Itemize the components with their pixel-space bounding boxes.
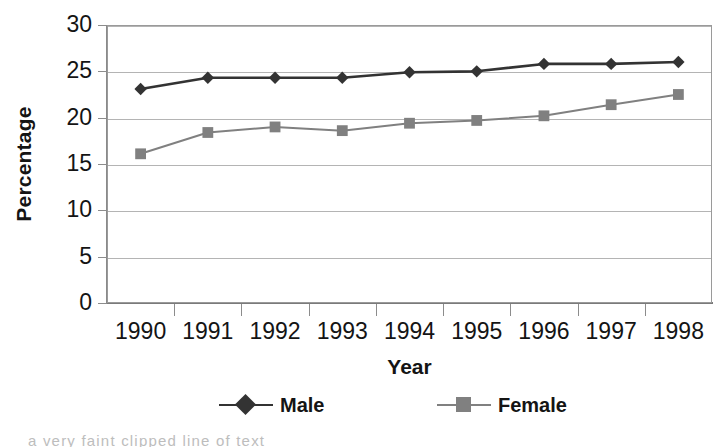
x-tick-label: 1990 xyxy=(107,320,174,343)
square-marker-icon xyxy=(404,118,415,129)
square-marker-icon xyxy=(539,110,550,121)
diamond-marker-icon xyxy=(538,58,550,70)
y-tick-mark xyxy=(98,71,107,72)
x-tick-label: 1992 xyxy=(241,320,308,343)
x-tick-label: 1993 xyxy=(309,320,376,343)
legend-key-female xyxy=(437,395,491,415)
x-tick-label: 1994 xyxy=(376,320,443,343)
y-tick-mark xyxy=(98,25,107,26)
diamond-marker-icon xyxy=(336,72,348,84)
x-axis-tick-labels: 199019911992199319941995199619971998 xyxy=(107,320,712,350)
series-layer xyxy=(107,25,712,303)
y-tick-mark xyxy=(98,118,107,119)
legend-label-male: Male xyxy=(280,394,324,417)
square-marker-icon xyxy=(135,148,146,159)
x-tick-mark xyxy=(510,304,511,316)
x-tick-mark xyxy=(376,304,377,316)
diamond-marker-icon xyxy=(269,72,281,84)
diamond-marker-icon xyxy=(605,58,617,70)
y-tick-label: 15 xyxy=(30,152,92,175)
diamond-marker-icon xyxy=(134,83,146,95)
x-tick-mark xyxy=(241,304,242,316)
y-tick-label: 20 xyxy=(30,106,92,129)
y-tick-mark xyxy=(98,257,107,258)
y-tick-mark xyxy=(98,210,107,211)
y-axis-tick-labels: 051015202530 xyxy=(30,0,92,447)
square-marker-icon xyxy=(471,115,482,126)
diamond-marker-icon xyxy=(235,394,256,415)
diamond-marker-icon xyxy=(471,65,483,77)
x-tick-mark xyxy=(309,304,310,316)
square-marker-icon xyxy=(673,89,684,100)
line-chart: Percentage 051015202530 1990199119921993… xyxy=(0,0,726,447)
square-marker-icon xyxy=(270,122,281,133)
y-tick-label: 30 xyxy=(30,13,92,36)
legend-label-female: Female xyxy=(498,394,567,417)
chart-legend: Male Female xyxy=(107,392,712,418)
legend-item-male[interactable]: Male xyxy=(219,392,324,418)
diamond-marker-icon xyxy=(403,66,415,78)
y-tick-mark xyxy=(98,164,107,165)
square-marker-icon xyxy=(202,127,213,138)
y-tick-label: 5 xyxy=(30,245,92,268)
x-tick-label: 1991 xyxy=(174,320,241,343)
y-tick-label: 25 xyxy=(30,59,92,82)
diamond-marker-icon xyxy=(202,72,214,84)
y-tick-mark xyxy=(98,303,107,304)
x-axis-title: Year xyxy=(107,355,712,379)
diamond-marker-icon xyxy=(672,56,684,68)
x-tick-label: 1995 xyxy=(443,320,510,343)
square-marker-icon xyxy=(337,125,348,136)
square-marker-icon xyxy=(606,99,617,110)
legend-item-female[interactable]: Female xyxy=(437,392,567,418)
x-tick-label: 1996 xyxy=(510,320,577,343)
square-marker-icon xyxy=(456,397,471,412)
x-tick-label: 1998 xyxy=(645,320,712,343)
x-tick-mark xyxy=(645,304,646,316)
y-tick-label: 0 xyxy=(30,291,92,314)
series-male xyxy=(134,56,684,95)
y-tick-label: 10 xyxy=(30,198,92,221)
x-tick-label: 1997 xyxy=(578,320,645,343)
x-tick-mark xyxy=(578,304,579,316)
x-tick-mark xyxy=(174,304,175,316)
clipped-caption: a very faint clipped line of text xyxy=(28,432,358,447)
legend-key-male xyxy=(219,395,273,415)
x-tick-mark xyxy=(443,304,444,316)
series-female xyxy=(135,89,684,159)
